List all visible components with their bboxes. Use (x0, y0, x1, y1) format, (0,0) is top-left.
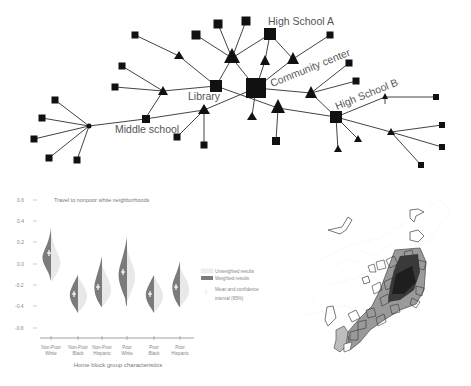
y-axis: 0.6 0.4 0.2 0.0 -0.2 -0.4 -0.6 (15, 197, 37, 331)
x-tick-label: Black (148, 351, 160, 356)
map-polygon (328, 217, 352, 234)
node-square (418, 162, 424, 168)
node-square (119, 63, 126, 70)
node-triangle (247, 112, 257, 120)
x-tick-label: White (45, 351, 57, 356)
violin-non-poor-white (42, 227, 60, 282)
x-tick-label: Poor (149, 345, 159, 350)
legend-swatch-unweighted (201, 269, 213, 273)
node-square (201, 142, 208, 149)
y-tick-label: -0.6 (15, 325, 24, 331)
label-high-school-a: High School A (268, 15, 334, 27)
legend-swatch-weighted (201, 276, 213, 280)
map-polygon (410, 209, 424, 222)
node-square (214, 20, 223, 29)
violin-poor-black (146, 275, 163, 313)
node-square (272, 137, 280, 145)
legend-label-mean-ci-2: interval (95%) (215, 296, 244, 301)
node-triangle (382, 93, 388, 99)
node-square (52, 97, 59, 104)
x-axis-label: Home block group characteristics (74, 362, 163, 368)
x-tick-label: Black (72, 351, 84, 356)
violin-poor-hispanic (172, 261, 189, 307)
violins (42, 227, 189, 313)
y-tick-label: 0.0 (17, 261, 24, 267)
y-tick-label: 0.2 (17, 239, 24, 245)
node-square (433, 94, 439, 100)
node-square (74, 157, 81, 164)
node-square (439, 122, 445, 128)
label-library: Library (188, 90, 221, 102)
y-tick-label: 0.4 (17, 218, 24, 224)
node-square (346, 60, 353, 67)
x-tick-label: Poor (175, 345, 185, 350)
violin-non-poor-black (70, 275, 87, 313)
violin-poor-white (119, 237, 136, 306)
node-square (192, 31, 201, 40)
node-triangle (174, 51, 184, 59)
node-square (46, 155, 53, 162)
label-community-center: Community center (268, 46, 352, 89)
node-triangle (260, 55, 270, 65)
x-tick-label: White (121, 351, 133, 356)
x-tick-label: Non-Poor (68, 345, 88, 350)
node-square (439, 144, 445, 150)
node-square (242, 17, 251, 26)
node-square (112, 84, 119, 91)
node-dot (87, 124, 92, 129)
node-triangle (334, 145, 342, 152)
x-tick-label: Hispanic (171, 351, 189, 356)
map-polygon (362, 276, 370, 284)
map-dense-cluster (334, 248, 426, 352)
node-community-center (246, 78, 266, 98)
node-high-school-b (330, 111, 342, 123)
y-tick-label: -0.4 (15, 303, 24, 309)
legend-mean-marker (204, 289, 208, 295)
legend-label-weighted: Weighted results (215, 276, 250, 281)
node-square (31, 136, 38, 143)
y-tick-label: 0.6 (17, 197, 24, 203)
x-tick-label: Hispanic (93, 351, 111, 356)
node-square (39, 115, 46, 122)
node-square (132, 32, 139, 39)
violin-chart: Travel to nonpoor white neighborhoods 0.… (0, 190, 300, 386)
node-middle-school (142, 115, 150, 123)
node-square (353, 78, 360, 85)
label-middle-school: Middle school (115, 123, 179, 135)
x-axis: Non-Poor White Non-Poor Black Non-Poor H… (40, 336, 194, 368)
node-triangle (198, 104, 210, 114)
legend-label-mean-ci-1: Mean and confidence (215, 287, 259, 292)
x-tick-label: Non-Poor (41, 345, 61, 350)
node-square (327, 32, 334, 39)
map-polygon (410, 230, 424, 242)
violin-non-poor-hispanic (94, 256, 111, 307)
neighborhood-map (300, 190, 471, 386)
y-tick-label: -0.2 (15, 282, 24, 288)
x-tick-label: Poor (122, 345, 132, 350)
node-high-school-a (264, 28, 276, 40)
x-tick-label: Non-Poor (92, 345, 112, 350)
map-polygon (325, 306, 336, 326)
node-triangle (224, 48, 240, 63)
network-diagram: High School A Community center Library H… (0, 0, 471, 190)
legend-label-unweighted: Unweighted results (215, 269, 255, 274)
chart-legend: Unweighted results Weighted results Mean… (201, 269, 259, 301)
chart-title: Travel to nonpoor white neighborhoods (54, 197, 149, 203)
label-high-school-b: High School B (333, 76, 399, 112)
